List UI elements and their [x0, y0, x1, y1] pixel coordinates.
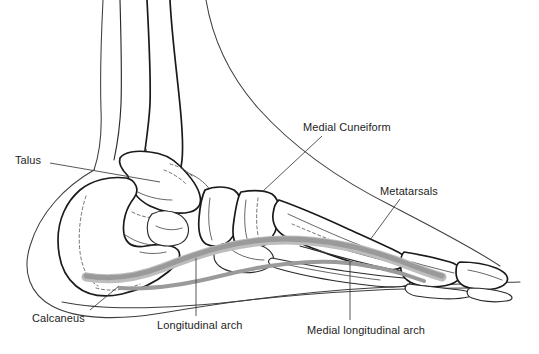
- label-calcaneus: Calcaneus: [32, 313, 85, 324]
- leader-metatarsals: [370, 199, 400, 240]
- sustentaculum-detail: [147, 211, 188, 246]
- label-medial-longitudinal-arch: Medial longitudinal arch: [307, 325, 425, 336]
- diagram-canvas: [0, 0, 539, 354]
- fibula-bone: [114, 0, 121, 160]
- leader-medial-cuneiform: [262, 136, 322, 192]
- foot-anatomy-diagram: Talus Calcaneus Medial Cuneiform Metatar…: [0, 0, 539, 354]
- label-medial-cuneiform: Medial Cuneiform: [303, 122, 391, 133]
- label-longitudinal-arch: Longitudinal arch: [157, 320, 242, 331]
- label-metatarsals: Metatarsals: [380, 186, 438, 197]
- label-talus: Talus: [15, 155, 41, 166]
